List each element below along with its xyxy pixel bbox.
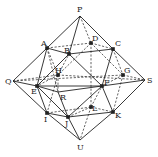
solid-edge-JU [68, 117, 80, 140]
solid-edge-QE [13, 81, 37, 86]
vertex-label-B: B [64, 46, 70, 55]
solid-edge-IU [47, 113, 80, 140]
vertex-label-K: K [115, 111, 122, 120]
solid-edge-AE [37, 48, 47, 86]
dashed-edge-CG [113, 49, 123, 75]
vertex-label-U: U [77, 143, 84, 152]
diagram-svg: PABDCQHGSEFRLIJKU [0, 0, 158, 157]
solid-edge-AQ [13, 48, 47, 81]
dashed-edge-HI [47, 75, 58, 113]
vertex-label-A: A [40, 39, 47, 48]
solid-edge-SK [113, 80, 145, 112]
vertex-label-L: L [92, 104, 98, 113]
dashed-edge-PD [80, 16, 91, 43]
solid-edge-PC [80, 16, 113, 49]
solid-edge-JK [68, 112, 113, 117]
solid-edge-BF [69, 54, 102, 86]
solid-edge-RF [58, 86, 102, 92]
vertex-label-R: R [60, 93, 67, 102]
solid-edge-BC [69, 49, 113, 54]
dashed-edge-QH [13, 75, 58, 81]
vertex-label-E: E [31, 87, 37, 96]
vertex-label-G: G [124, 66, 130, 75]
vertex-label-J: J [64, 119, 68, 128]
dashed-edge-IL [47, 107, 91, 113]
vertex-label-P: P [77, 5, 83, 14]
vertex-label-H: H [55, 66, 62, 75]
vertex-label-C: C [115, 39, 121, 48]
solid-edge-CS [113, 49, 145, 80]
vertex-label-S: S [147, 76, 152, 85]
octahedron-diagram: PABDCQHGSEFRLIJKU [0, 0, 158, 157]
solid-edge-FK [102, 86, 113, 112]
vertex-label-D: D [92, 34, 98, 43]
vertex-labels: PABDCQHGSEFRLIJKU [5, 5, 152, 152]
vertex-label-I: I [44, 115, 47, 124]
vertex-label-Q: Q [5, 77, 12, 86]
solid-edge-BE [37, 54, 69, 86]
hidden-edges [13, 16, 145, 140]
solid-edge-EI [37, 86, 47, 113]
vertex-label-F: F [104, 78, 110, 87]
visible-edges [13, 16, 145, 140]
